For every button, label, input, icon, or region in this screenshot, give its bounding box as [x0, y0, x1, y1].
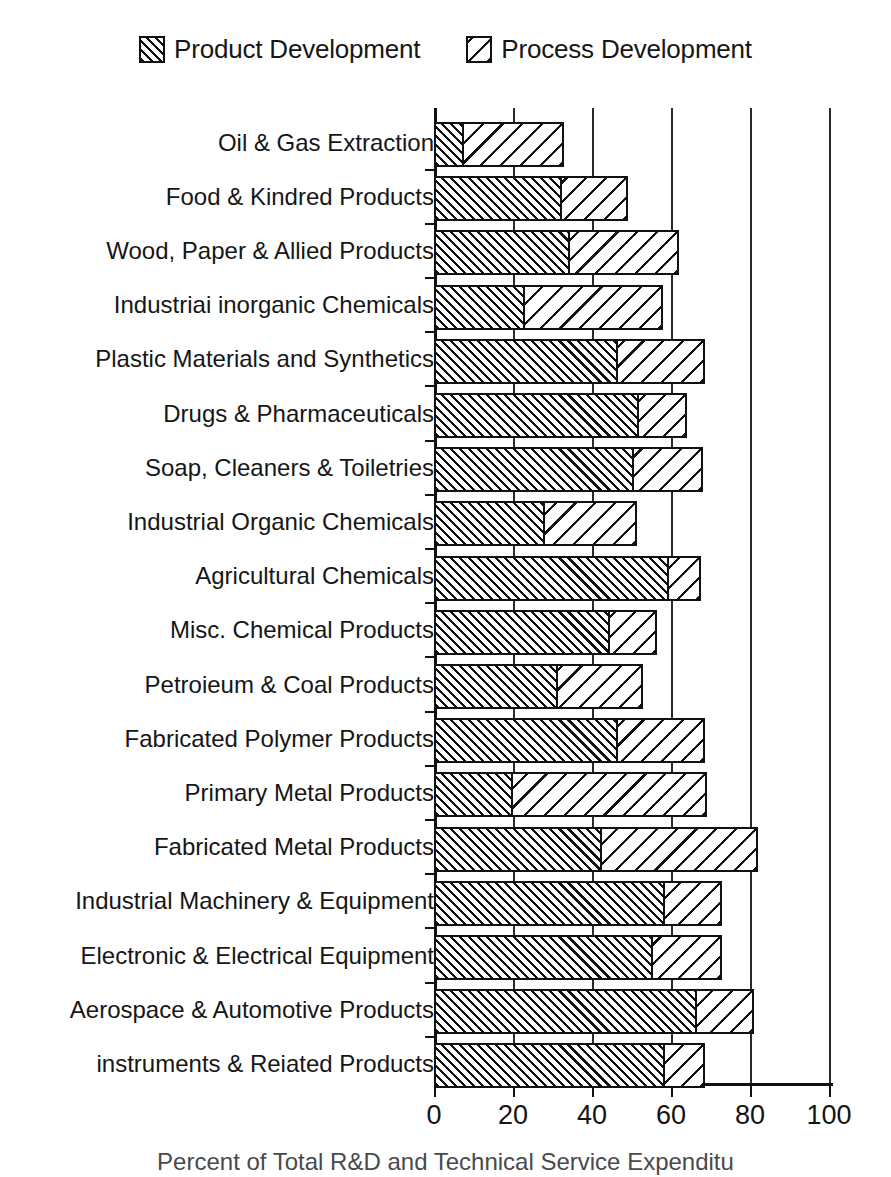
y-tick	[425, 927, 435, 929]
bar-segment-product-development[interactable]	[436, 720, 618, 761]
x-tick-label-20: 20	[498, 1100, 528, 1131]
category-label: Soap, Cleaners & Toiletries	[145, 456, 434, 480]
bar-segment-product-development[interactable]	[436, 937, 653, 978]
stacked-bar[interactable]	[434, 827, 758, 872]
bar-segment-process-development[interactable]	[558, 666, 641, 707]
x-tick-label-60: 60	[656, 1100, 686, 1131]
bar-segment-product-development[interactable]	[436, 124, 464, 165]
y-tick	[425, 385, 435, 387]
y-tick	[425, 765, 435, 767]
y-tick	[425, 277, 435, 279]
legend-entry-product-development: Product Development	[139, 34, 420, 65]
stacked-bar[interactable]	[434, 1043, 705, 1088]
category-label: Misc. Chemical Products	[170, 618, 434, 642]
stacked-bar[interactable]	[434, 230, 679, 275]
bar-segment-process-development[interactable]	[570, 232, 677, 273]
bar-segment-process-development[interactable]	[634, 449, 701, 490]
y-tick	[425, 982, 435, 984]
bar-row: Industrial Organic Chemicals	[0, 501, 891, 542]
category-label: Oil & Gas Extraction	[218, 131, 434, 155]
bar-segment-process-development[interactable]	[513, 774, 705, 815]
bar-row: Drugs & Pharmaceuticals	[0, 393, 891, 434]
stacked-bar[interactable]	[434, 718, 705, 763]
bar-segment-product-development[interactable]	[436, 503, 545, 544]
stacked-bar[interactable]	[434, 339, 705, 384]
bar-row: Fabricated Polymer Products	[0, 718, 891, 759]
bar-row: Food & Kindred Products	[0, 176, 891, 217]
bar-row: Industriai inorganic Chemicals	[0, 285, 891, 326]
bar-segment-process-development[interactable]	[545, 503, 636, 544]
bar-segment-product-development[interactable]	[436, 287, 525, 328]
y-tick	[425, 873, 435, 875]
y-tick	[425, 711, 435, 713]
category-label: Fabricated Metal Products	[154, 835, 434, 859]
category-label: Industrial Machinery & Equipment	[75, 889, 434, 913]
legend-swatch-process-development-icon	[466, 36, 492, 63]
bar-segment-process-development[interactable]	[618, 341, 703, 382]
category-label: Agricultural Chemicals	[195, 564, 434, 588]
stacked-bar[interactable]	[434, 772, 707, 817]
category-label: instruments & Reiated Products	[97, 1052, 435, 1076]
bar-segment-process-development[interactable]	[669, 558, 699, 599]
chart-caption: Percent of Total R&D and Technical Servi…	[0, 1148, 891, 1176]
bar-segment-process-development[interactable]	[602, 829, 756, 870]
bar-segment-process-development[interactable]	[665, 1045, 703, 1086]
bar-segment-process-development[interactable]	[618, 720, 703, 761]
stacked-bar[interactable]	[434, 393, 687, 438]
bar-row: Primary Metal Products	[0, 772, 891, 813]
bar-segment-product-development[interactable]	[436, 829, 602, 870]
bar-segment-product-development[interactable]	[436, 991, 697, 1032]
bar-segment-product-development[interactable]	[436, 449, 634, 490]
bar-row: Industrial Machinery & Equipment	[0, 881, 891, 922]
bar-row: Electronic & Electrical Equipment	[0, 935, 891, 976]
stacked-bar[interactable]	[434, 989, 754, 1034]
category-label: Primary Metal Products	[185, 781, 434, 805]
category-label: Plastic Materials and Synthetics	[95, 347, 434, 371]
bar-row: Plastic Materials and Synthetics	[0, 339, 891, 380]
bar-segment-process-development[interactable]	[610, 612, 655, 653]
x-tick-label-0: 0	[426, 1100, 441, 1131]
bar-segment-product-development[interactable]	[436, 1045, 665, 1086]
bar-segment-product-development[interactable]	[436, 883, 665, 924]
stacked-bar[interactable]	[434, 664, 643, 709]
bar-segment-product-development[interactable]	[436, 395, 639, 436]
category-label: Drugs & Pharmaceuticals	[163, 402, 434, 426]
stacked-bar[interactable]	[434, 176, 628, 221]
bar-segment-product-development[interactable]	[436, 178, 562, 219]
stacked-bar[interactable]	[434, 447, 703, 492]
bar-segment-product-development[interactable]	[436, 558, 669, 599]
stacked-bar[interactable]	[434, 285, 663, 330]
category-label: Fabricated Polymer Products	[125, 727, 434, 751]
bar-segment-process-development[interactable]	[653, 937, 720, 978]
bar-row: Soap, Cleaners & Toiletries	[0, 447, 891, 488]
bar-segment-product-development[interactable]	[436, 666, 558, 707]
bar-segment-process-development[interactable]	[697, 991, 752, 1032]
bar-row: Aerospace & Automotive Products	[0, 989, 891, 1030]
stacked-bar[interactable]	[434, 881, 722, 926]
stacked-bar[interactable]	[434, 610, 657, 655]
x-tick-label-40: 40	[577, 1100, 607, 1131]
category-label: Food & Kindred Products	[166, 185, 434, 209]
legend-label-product-development: Product Development	[174, 34, 420, 65]
y-tick	[425, 169, 435, 171]
bar-segment-process-development[interactable]	[562, 178, 625, 219]
bar-segment-process-development[interactable]	[464, 124, 563, 165]
y-tick	[425, 602, 435, 604]
legend-swatch-product-development-icon	[139, 36, 165, 63]
bar-segment-product-development[interactable]	[436, 612, 610, 653]
stacked-bar[interactable]	[434, 556, 701, 601]
bar-segment-process-development[interactable]	[525, 287, 661, 328]
y-tick	[425, 494, 435, 496]
category-label: Electronic & Electrical Equipment	[81, 944, 434, 968]
bar-segment-product-development[interactable]	[436, 774, 513, 815]
bar-segment-product-development[interactable]	[436, 232, 570, 273]
category-label: Wood, Paper & Allied Products	[106, 239, 434, 263]
stacked-bar[interactable]	[434, 501, 637, 546]
bar-segment-product-development[interactable]	[436, 341, 618, 382]
stacked-bar[interactable]	[434, 122, 564, 167]
stacked-bar[interactable]	[434, 935, 722, 980]
category-label: Petroieum & Coal Products	[145, 673, 434, 697]
bar-segment-process-development[interactable]	[665, 883, 720, 924]
category-label: Industrial Organic Chemicals	[127, 510, 434, 534]
bar-segment-process-development[interactable]	[639, 395, 684, 436]
